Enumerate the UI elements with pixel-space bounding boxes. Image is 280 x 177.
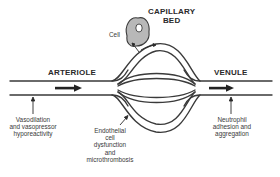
endothelial-line-3: dysfunction (80, 141, 140, 148)
vasodilation-label: Vasodilation and vasopressor hyporeactiv… (2, 116, 64, 138)
capillary-mid-3 (118, 90, 195, 98)
neutrophil-line-2: adhesion and (206, 123, 258, 130)
venule-flow-arrow (209, 85, 234, 92)
arteriole-label: ARTERIOLE (48, 69, 96, 78)
neutrophil-label: Neutrophil adhesion and aggregation (206, 116, 258, 138)
endothelial-line-4: and (80, 149, 140, 156)
microcirculation-diagram: CAPILLARY BED Cell ARTERIOLE VENULE Vaso… (0, 0, 280, 177)
endothelial-label: Endothelial cell dysfunction and microth… (80, 127, 140, 163)
capillary-bed-label: CAPILLARY BED (148, 8, 195, 26)
vasodilation-line-3: hyporeactivity (2, 130, 64, 137)
cell-label: Cell (109, 31, 120, 38)
arteriole-bottom-wall (10, 95, 128, 106)
capillary-mid-2 (118, 79, 195, 87)
endothelial-line-2: cell (80, 134, 140, 141)
cell-nucleus (136, 24, 142, 32)
endothelial-line-1: Endothelial (80, 127, 140, 134)
endothelial-line-5: microthrombosis (80, 156, 140, 163)
vessel-drawing (0, 0, 280, 177)
venule-label: VENULE (214, 69, 248, 78)
neutrophil-line-3: aggregation (206, 130, 258, 137)
arteriole-flow-arrow (55, 85, 82, 92)
neutrophil-line-1: Neutrophil (206, 116, 258, 123)
venule-bottom-wall (184, 95, 272, 106)
vasodilation-line-2: and vasopressor (2, 123, 64, 130)
capillary-bed-line-2: BED (148, 17, 195, 26)
vasodilation-line-1: Vasodilation (2, 116, 64, 123)
